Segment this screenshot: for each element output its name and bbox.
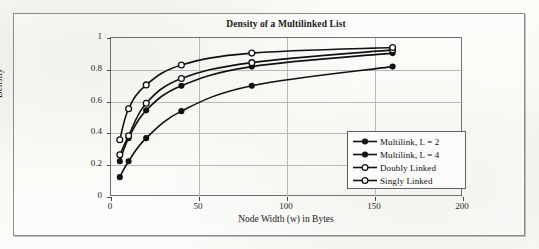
x-tick-label: 50 [181, 201, 215, 211]
legend-label: Singly Linked [380, 176, 433, 186]
x-tick-label: 0 [93, 201, 127, 211]
series-4 [117, 45, 396, 143]
data-point [179, 83, 184, 88]
data-point [144, 108, 149, 113]
figure-container: Density of a Multilinked List Density No… [0, 0, 539, 249]
legend-marker-icon [352, 161, 378, 174]
legend-item: Multilink, L = 4 [352, 148, 461, 161]
data-point [390, 45, 396, 51]
data-point [249, 50, 255, 56]
y-tick-label: 0.6 [68, 95, 102, 105]
data-point [179, 62, 185, 68]
data-point [126, 159, 131, 164]
legend-label: Multilink, L = 4 [380, 150, 439, 160]
legend-item: Singly Linked [352, 174, 461, 187]
data-point [143, 100, 149, 106]
legend-marker-icon [352, 174, 378, 187]
data-point [249, 83, 254, 88]
data-point [117, 175, 122, 180]
chart-title: Density of a Multilinked List [110, 19, 462, 29]
legend-marker-icon [352, 135, 378, 148]
data-point [249, 60, 255, 66]
data-point [144, 136, 149, 141]
legend-label: Multilink, L = 2 [380, 137, 439, 147]
data-point [126, 133, 132, 139]
legend-label: Doubly Linked [380, 163, 436, 173]
x-tick-label: 100 [269, 201, 303, 211]
x-axis-label: Node Width (w) in Bytes [110, 214, 462, 224]
data-point [143, 82, 149, 88]
data-point [179, 76, 185, 82]
legend-item: Multilink, L = 2 [352, 135, 461, 148]
y-axis-label: Density [0, 68, 4, 98]
data-point [117, 137, 123, 143]
data-point [179, 109, 184, 114]
y-tick-label: 1 [68, 31, 102, 41]
legend-item: Doubly Linked [352, 161, 461, 174]
data-point [126, 106, 132, 112]
plot-area: Multilink, L = 2Multilink, L = 4Doubly L… [110, 37, 462, 196]
chart-legend: Multilink, L = 2Multilink, L = 4Doubly L… [347, 131, 466, 189]
y-tick-label: 0.8 [68, 63, 102, 73]
x-tick-label: 200 [445, 201, 479, 211]
data-point [117, 152, 123, 158]
y-tick-label: 0.4 [68, 126, 102, 136]
x-tick-label: 150 [357, 201, 391, 211]
data-point [117, 159, 122, 164]
y-tick-label: 0.2 [68, 158, 102, 168]
data-point [390, 64, 395, 69]
y-tick-label: 0 [68, 190, 102, 200]
legend-marker-icon [352, 148, 378, 161]
